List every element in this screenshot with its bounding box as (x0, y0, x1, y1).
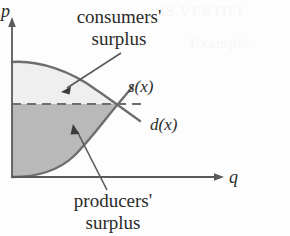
supply-curve-label: s(x) (128, 77, 154, 96)
consumer-surplus-label-line2: surplus (92, 28, 147, 49)
producer-surplus-region (12, 104, 118, 177)
consumer-surplus-label-line1: consumers' (77, 6, 162, 27)
producer-surplus-label-line1: producers' (74, 190, 152, 211)
x-axis-label: q (229, 167, 238, 187)
scan-artifact-group: IS VERTIFI Example (160, 3, 250, 51)
surplus-figure: IS VERTIFI Example p q consumers' surplu… (0, 0, 290, 236)
x-axis-arrowhead (214, 173, 224, 181)
consumer-surplus-region (12, 62, 118, 104)
scan-artifact-line1: IS VERTIFI (160, 3, 243, 19)
y-axis-label: p (0, 1, 10, 21)
scan-artifact-line2: Example (190, 35, 250, 51)
demand-curve-label: d(x) (150, 115, 178, 134)
surplus-diagram-svg: IS VERTIFI Example p q consumers' surplu… (0, 0, 290, 236)
producer-surplus-label-line2: surplus (86, 212, 141, 233)
